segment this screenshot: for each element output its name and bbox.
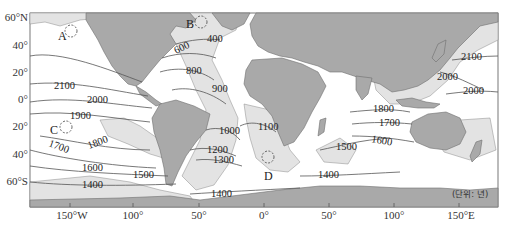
point-c-label: C (50, 123, 58, 137)
contour-label-800: 800 (186, 65, 202, 76)
lon-label-150e: 150°E (447, 209, 475, 221)
contour-label-2000-west-pacific: 2000 (437, 71, 458, 82)
lon-label-100w: 100° (123, 209, 144, 221)
contour-label-1900: 1900 (70, 110, 91, 121)
lon-label-100e: 100° (384, 209, 405, 221)
lat-label-20n: 20° (13, 66, 28, 78)
point-b-label: B (186, 17, 194, 31)
contour-label-1000: 1000 (219, 125, 240, 136)
contour-label-1400-atlantic: 1400 (211, 188, 232, 199)
contour-label-1300: 1300 (213, 154, 234, 165)
contour-label-1500-indian: 1500 (336, 141, 357, 152)
lon-label-0: 0° (259, 209, 269, 221)
lon-label-50w: 50° (191, 209, 206, 221)
point-a-label: A (58, 29, 67, 43)
lat-label-60s: 60°S (6, 175, 28, 187)
contour-label-2000-pacific: 2000 (87, 94, 108, 105)
contour-label-1400-indian: 1400 (318, 169, 339, 180)
contour-label-1400-pacific: 1400 (82, 179, 103, 190)
contour-label-2100-west-pacific: 2100 (461, 51, 482, 62)
point-d-label: D (264, 169, 273, 183)
lon-label-50e: 50° (321, 209, 336, 221)
lat-label-0: 0° (18, 93, 28, 105)
ocean-age-map: A B C D 2100 2000 1900 1800 1700 1600 15… (0, 0, 505, 225)
lat-label-40s: 40° (13, 148, 28, 160)
lat-label-20s: 20° (13, 120, 28, 132)
latitude-axis: 60°N 40° 20° 0° 20° 40° 60°S (5, 11, 28, 187)
lat-label-60n: 60°N (5, 11, 28, 23)
contour-label-2000-east: 2000 (463, 85, 484, 96)
unit-label: (단위: 년) (452, 189, 488, 199)
lon-label-150w: 150°W (56, 209, 88, 221)
contour-label-1100: 1100 (258, 121, 279, 132)
contour-label-1500-pacific: 1500 (133, 169, 154, 180)
contour-label-1700-indian: 1700 (379, 117, 400, 128)
contour-label-2100-pacific: 2100 (54, 80, 75, 91)
contour-label-400: 400 (207, 33, 223, 44)
longitude-axis: 150°W 100° 50° 0° 50° 100° 150°E (56, 209, 475, 221)
contour-label-900: 900 (212, 83, 228, 94)
contour-label-1800-indian: 1800 (373, 103, 394, 114)
lat-label-40n: 40° (13, 39, 28, 51)
contour-label-1600-pacific: 1600 (82, 162, 103, 173)
